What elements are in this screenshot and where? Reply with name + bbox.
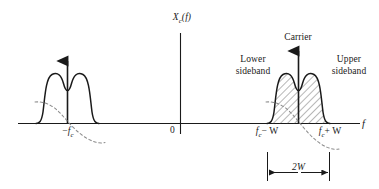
lower-sideband-label: Lower sideband (236, 54, 271, 77)
carrier-label: Carrier (284, 32, 312, 43)
upper-edge-tail: + W (325, 126, 342, 136)
y-axis-label: Xc(f) (173, 12, 191, 27)
x-axis-label: f (362, 118, 365, 129)
bandwidth-label: 2W (292, 162, 305, 173)
lower-edge-tail: − W (262, 126, 279, 136)
spectrum-plot-canvas (0, 0, 379, 189)
tick-fc-sub: c (71, 131, 74, 139)
origin-label: 0 (170, 125, 175, 136)
upper-sideband-label: Upper sideband (332, 54, 367, 77)
tick-label-lower-edge: fc− W (256, 126, 279, 141)
spectrum-figure: Xc(f) 0 f −fc fc− W fc+ W Carrier Lower … (0, 0, 379, 189)
tick-label-negative-carrier: −fc (62, 126, 73, 141)
y-axis-label-tail: (f) (182, 12, 191, 22)
tick-label-upper-edge: fc+ W (319, 126, 342, 141)
